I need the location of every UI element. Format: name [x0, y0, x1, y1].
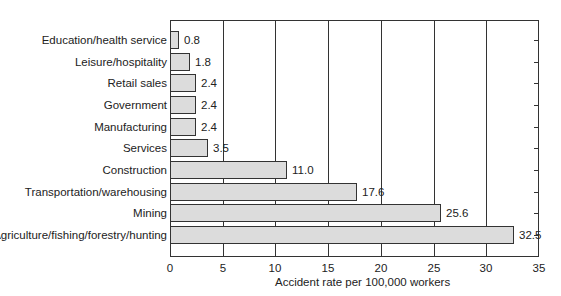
category-label: Manufacturing	[94, 120, 167, 134]
gridline	[486, 20, 487, 257]
x-tick-label: 20	[366, 261, 396, 275]
value-label: 32.5	[519, 228, 541, 242]
right-tick	[534, 105, 539, 106]
value-label: 0.8	[184, 33, 200, 47]
x-tick-label: 5	[208, 261, 238, 275]
value-label: 1.8	[195, 55, 211, 69]
category-label: Leisure/hospitality	[75, 55, 167, 69]
right-tick	[534, 40, 539, 41]
right-tick	[534, 192, 539, 193]
category-label: Construction	[102, 163, 167, 177]
bar	[170, 226, 514, 244]
x-tick-label: 35	[524, 261, 554, 275]
x-axis-label: Accident rate per 100,000 workers	[275, 275, 450, 289]
value-label: 17.6	[362, 185, 384, 199]
x-tick-label: 15	[313, 261, 343, 275]
right-tick	[534, 148, 539, 149]
category-label: Education/health service	[42, 33, 167, 47]
right-tick	[534, 170, 539, 171]
category-label: Transportation/warehousing	[25, 185, 167, 199]
bar	[170, 118, 196, 136]
value-label: 2.4	[201, 76, 217, 90]
value-label: 25.6	[446, 206, 468, 220]
bar	[170, 53, 190, 71]
x-tick-label: 0	[155, 261, 185, 275]
bar	[170, 31, 179, 49]
value-label: 2.4	[201, 120, 217, 134]
value-label: 11.0	[292, 163, 314, 177]
right-tick	[534, 213, 539, 214]
value-label: 2.4	[201, 98, 217, 112]
right-tick	[534, 83, 539, 84]
category-label: Retail sales	[108, 76, 167, 90]
bar	[170, 96, 196, 114]
x-tick-label: 25	[419, 261, 449, 275]
right-tick	[534, 62, 539, 63]
bar	[170, 183, 357, 201]
category-label: Government	[104, 98, 167, 112]
category-label: Agriculture/fishing/forestry/hunting	[0, 228, 167, 242]
category-label: Services	[123, 141, 167, 155]
bar	[170, 161, 287, 179]
x-tick-label: 10	[260, 261, 290, 275]
bar-chart: 0.81.82.42.42.43.511.017.625.632.5 Educa…	[0, 0, 561, 296]
bar	[170, 204, 441, 222]
category-label: Mining	[133, 206, 167, 220]
right-tick	[534, 127, 539, 128]
bar	[170, 74, 196, 92]
bar	[170, 139, 208, 157]
value-label: 3.5	[213, 141, 229, 155]
x-tick-label: 30	[471, 261, 501, 275]
